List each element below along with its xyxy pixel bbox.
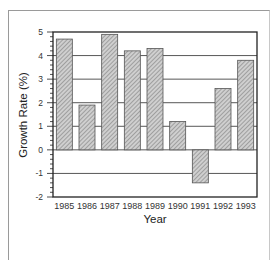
y-tick-label: 4 — [38, 51, 43, 61]
x-tick-label: 1992 — [213, 201, 233, 211]
x-axis-title: Year — [143, 213, 166, 225]
bar-1993 — [238, 60, 254, 150]
x-axis-ticks: 198519861987198819891990199119921993 — [54, 201, 255, 211]
y-tick-label: 1 — [38, 121, 43, 131]
bar-1989 — [147, 49, 163, 150]
y-tick-label: 2 — [38, 98, 43, 108]
bar-1985 — [56, 39, 72, 150]
bar-1988 — [124, 51, 140, 150]
y-tick-label: 3 — [38, 74, 43, 84]
bar-1987 — [102, 34, 118, 150]
bar-series — [56, 34, 253, 183]
x-tick-label: 1990 — [168, 201, 188, 211]
x-tick-label: 1987 — [100, 201, 120, 211]
y-axis-title: Growth Rate (%) — [17, 72, 29, 158]
y-tick-label: -1 — [35, 168, 43, 178]
y-tick-label: -2 — [35, 192, 43, 202]
x-tick-label: 1993 — [236, 201, 256, 211]
bar-1986 — [79, 105, 95, 150]
y-tick-label: 0 — [38, 145, 43, 155]
x-tick-label: 1985 — [54, 201, 74, 211]
x-tick-label: 1986 — [77, 201, 97, 211]
y-axis-ticks: 543210-1-2 — [35, 27, 53, 202]
bar-1990 — [170, 122, 186, 150]
y-tick-label: 5 — [38, 27, 43, 37]
x-tick-label: 1988 — [122, 201, 142, 211]
x-tick-label: 1989 — [145, 201, 165, 211]
bar-1992 — [215, 89, 231, 150]
bar-1991 — [192, 150, 208, 183]
x-tick-label: 1991 — [190, 201, 210, 211]
